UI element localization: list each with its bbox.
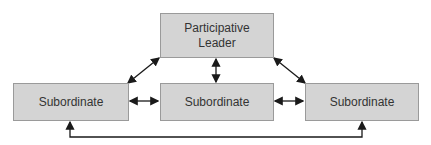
subordinate-label: Subordinate bbox=[185, 95, 250, 110]
arrow-leader-right bbox=[274, 58, 305, 83]
arrow-left-right-loop bbox=[70, 122, 362, 137]
subordinate-label: Subordinate bbox=[330, 95, 395, 110]
subordinate-label: Subordinate bbox=[39, 95, 104, 110]
leader-label-line2: Leader bbox=[198, 36, 235, 51]
arrow-leader-left bbox=[128, 58, 159, 83]
participative-leader-box: Participative Leader bbox=[160, 13, 274, 58]
subordinate-box-right: Subordinate bbox=[305, 83, 419, 121]
subordinate-box-left: Subordinate bbox=[13, 83, 129, 121]
subordinate-box-middle: Subordinate bbox=[160, 83, 274, 121]
leader-label-line1: Participative bbox=[184, 21, 249, 36]
